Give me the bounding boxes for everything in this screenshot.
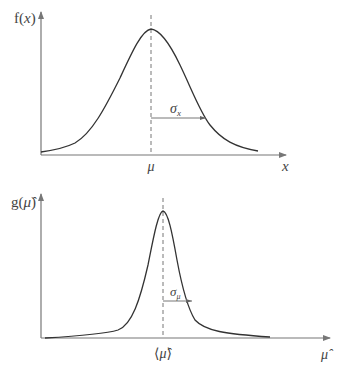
top-plot: f(x) μ x σx: [14, 10, 289, 174]
top-x-label: x: [281, 158, 289, 174]
bottom-mean-label: ⟨μ̂⟩: [154, 346, 172, 361]
bottom-sigma-label: σμ: [170, 284, 180, 301]
bottom-plot: g(μ̂) ⟨μ̂⟩ μ̂ σμ: [11, 194, 334, 362]
top-y-label: f(x): [14, 10, 36, 27]
bottom-y-label: g(μ̂): [11, 194, 37, 211]
top-sigma-label: σx: [170, 101, 181, 118]
bottom-peaked-curve: [45, 211, 270, 338]
top-gaussian-curve: [41, 29, 258, 152]
bottom-x-label: μ̂: [320, 347, 334, 362]
top-mean-label: μ: [146, 159, 154, 174]
distribution-diagram: f(x) μ x σx g(μ̂) ⟨μ̂⟩ μ̂ σμ: [0, 0, 339, 367]
